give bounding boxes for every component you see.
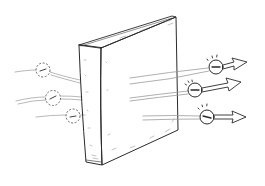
outgoing-streaks [130,68,209,120]
arrow-3 [214,111,246,123]
ghost-electron-3 [66,109,80,123]
illustration-canvas [0,0,265,186]
incoming-streaks [15,70,85,117]
electron-1 [207,55,223,74]
tunneling-illustration: Quantum tunneling of electrons through a… [0,0,265,186]
arrow-1 [223,58,247,70]
arrow-2 [202,78,241,92]
ghost-electron-2 [46,91,61,106]
electron-3 [198,104,214,124]
ghost-electron-1 [36,63,50,77]
barrier-slab [79,16,178,165]
incoming-electrons [36,63,80,123]
